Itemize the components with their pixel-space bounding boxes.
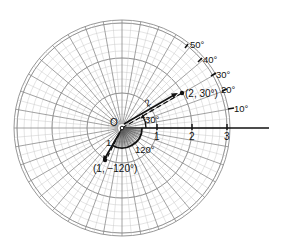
vector-label-1: 1 <box>106 137 111 148</box>
angle-label-30: 30° <box>216 69 231 80</box>
angle-label-10: 10° <box>234 103 249 114</box>
angle-label-40: 40° <box>203 54 218 65</box>
point-1-neg120 <box>103 158 107 162</box>
angle-label-20: 20° <box>221 84 236 95</box>
vector-label-2: 2 <box>142 97 152 109</box>
axis-tick-label-3: 3 <box>224 131 230 142</box>
axis-tick-label-2: 2 <box>189 131 195 142</box>
angle-label-30-annotation: 30° <box>145 114 160 125</box>
polar-diagram: 1 2 3 10° 20° 30° 40° 50° 30° 120° (2, 3… <box>0 0 284 247</box>
origin-label: O <box>110 117 118 128</box>
axis-ticks <box>157 124 227 130</box>
angle-label-120-annotation: 120° <box>135 144 155 155</box>
point-label-2-30: (2, 30°) <box>185 88 218 99</box>
angle-label-50: 50° <box>190 39 205 50</box>
point-2-30 <box>180 91 184 95</box>
origin-point <box>120 126 124 130</box>
point-label-1-neg120: (1, −120°) <box>93 163 137 174</box>
axis-tick-label-1: 1 <box>154 131 160 142</box>
